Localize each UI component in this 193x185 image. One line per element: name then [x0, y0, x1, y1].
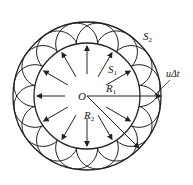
u-delta-t-label: uΔt: [166, 68, 180, 79]
wavefront-s2-label: S2: [143, 30, 153, 44]
center-label-o: O: [78, 90, 86, 102]
u-delta-t-leader: [154, 80, 170, 96]
huygens-wavefront-diagram: O R1 R2 S1 S2 uΔt: [0, 0, 193, 185]
